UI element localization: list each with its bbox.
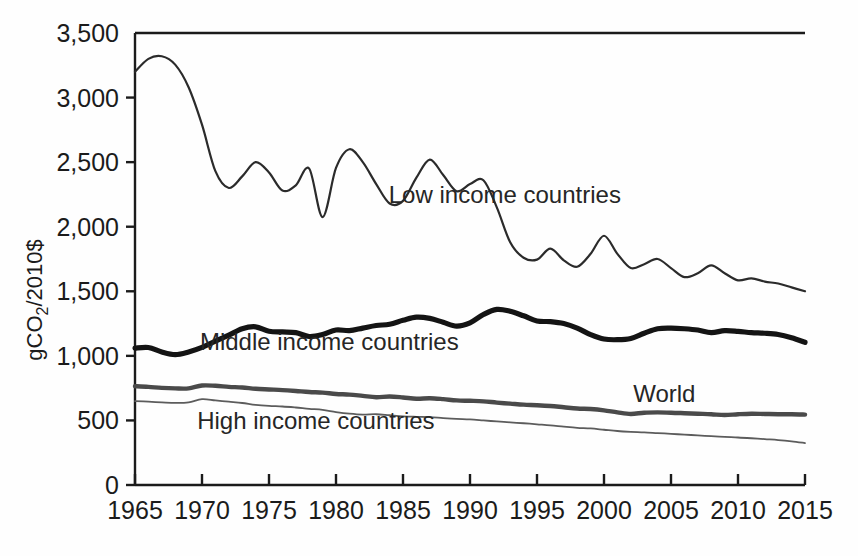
x-tick-label: 1985 (375, 496, 431, 524)
y-axis-tick-labels: 05001,0001,5002,0002,5003,0003,500 (56, 19, 119, 499)
x-tick-label: 1965 (107, 496, 163, 524)
line-chart: 05001,0001,5002,0002,5003,0003,500 19651… (0, 0, 858, 556)
y-tick-label: 500 (77, 406, 119, 434)
y-axis-title-group: gCO2/2010$ (22, 239, 51, 360)
series-label-world: World (633, 380, 695, 407)
y-tick-label: 0 (105, 471, 119, 499)
y-axis-title: gCO2/2010$ (22, 239, 51, 360)
y-tick-label: 2,500 (56, 148, 119, 176)
series-inline-labels: Low income countriesMiddle income countr… (197, 181, 695, 434)
x-tick-label: 2010 (710, 496, 766, 524)
y-tick-label: 1,000 (56, 342, 119, 370)
x-tick-label: 1980 (308, 496, 364, 524)
y-axis-title-text: gCO2/2010$ (22, 239, 51, 360)
x-tick-label: 1995 (509, 496, 565, 524)
x-tick-label: 2000 (576, 496, 632, 524)
series-line-low-income-countries (135, 56, 805, 291)
y-tick-label: 1,500 (56, 277, 119, 305)
series-label-low-income-countries: Low income countries (389, 181, 621, 208)
x-tick-label: 2005 (643, 496, 699, 524)
x-tick-label: 1970 (174, 496, 230, 524)
y-axis-title-pre: gCO (22, 315, 47, 360)
chart-figure: 05001,0001,5002,0002,5003,0003,500 19651… (0, 0, 858, 556)
x-axis-tick-labels: 1965197019751980198519901995200020052010… (107, 496, 833, 524)
x-tick-label: 1990 (442, 496, 498, 524)
x-tick-label: 1975 (241, 496, 297, 524)
y-tick-label: 2,000 (56, 213, 119, 241)
y-axis-title-subscript: 2 (34, 306, 51, 315)
y-tick-label: 3,000 (56, 84, 119, 112)
x-tick-label: 2015 (777, 496, 833, 524)
y-axis-title-post: /2010$ (22, 239, 47, 306)
series-label-middle-income-countries: Middle income countries (200, 328, 459, 355)
series-label-high-income-countries: High income countries (197, 407, 434, 434)
series-lines (135, 56, 805, 443)
y-tick-label: 3,500 (56, 19, 119, 47)
